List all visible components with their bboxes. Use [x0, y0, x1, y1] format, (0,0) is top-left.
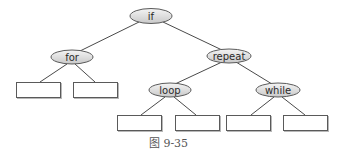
edge-loop-to-loop-right	[174, 97, 196, 115]
node-loop: loop	[149, 83, 191, 97]
leaf-rect	[176, 116, 220, 131]
node-label: repeat	[213, 51, 246, 62]
edge-repeat-to-while	[236, 62, 272, 84]
edge-for-to-for-left	[40, 64, 67, 82]
edge-while-to-while-left	[251, 97, 274, 115]
leaf-rect	[227, 116, 271, 131]
edge-for-to-for-right	[75, 64, 95, 82]
leaf-box-while-right	[284, 116, 329, 132]
edge-if-to-repeat	[163, 22, 222, 50]
tree-edges	[40, 22, 305, 115]
figure-caption: 图 9-35	[0, 134, 337, 150]
node-label: while	[265, 85, 291, 96]
edge-if-to-for	[80, 22, 139, 51]
edge-repeat-to-loop	[175, 62, 222, 84]
node-if: if	[130, 9, 172, 24]
leaf-rect	[74, 83, 118, 98]
leaf-box-loop-right	[176, 116, 221, 132]
node-for: for	[51, 50, 93, 64]
leaf-box-for-right	[74, 83, 119, 99]
leaf-box-loop-left	[118, 116, 163, 132]
node-label: loop	[159, 85, 180, 96]
node-label: if	[148, 11, 155, 22]
leaf-rect	[284, 116, 328, 131]
edge-loop-to-loop-left	[141, 97, 165, 115]
node-label: for	[65, 52, 80, 63]
edge-while-to-while-right	[282, 97, 305, 115]
leaf-rect	[17, 83, 61, 98]
node-repeat: repeat	[207, 49, 251, 63]
node-while: while	[256, 83, 300, 97]
leaf-rect	[118, 116, 162, 131]
leaf-box-for-left	[17, 83, 62, 99]
leaf-box-while-left	[227, 116, 272, 132]
